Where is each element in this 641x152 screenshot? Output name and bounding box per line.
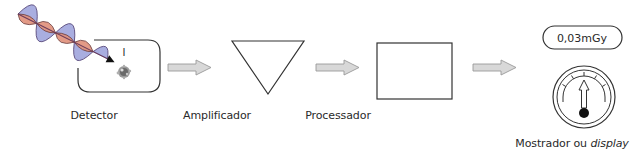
flow-arrow-2 (316, 60, 359, 75)
display-label-italic: display (590, 137, 628, 150)
analog-gauge-icon (553, 66, 615, 128)
display-label: Mostrador ou display (515, 137, 629, 150)
radiation-detection-diagram (0, 0, 641, 152)
ionization-cloud-icon (117, 65, 132, 79)
amplifier-triangle (232, 41, 304, 94)
display-label-main: Mostrador ou (515, 137, 590, 150)
detector-label: Detector (70, 109, 117, 122)
display-reading: 0,03mGy (557, 31, 607, 44)
current-symbol: I (123, 47, 126, 58)
processor-box (377, 43, 452, 99)
processor-label: Processador (305, 109, 371, 122)
flow-arrow-1 (168, 60, 211, 75)
amplifier-label: Amplificador (183, 109, 251, 122)
electromagnetic-wave-icon (11, 1, 121, 76)
flow-arrow-3 (473, 60, 516, 75)
